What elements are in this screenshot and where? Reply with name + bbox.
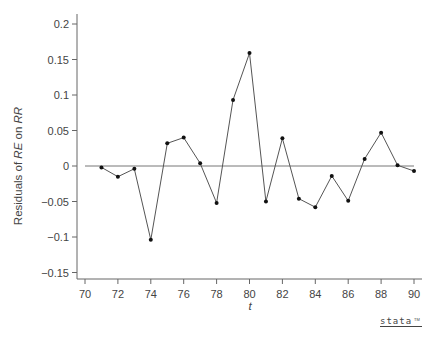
y-axis-title: Residuals of RE on RR [12, 107, 24, 225]
y-tick-label: −0.1 [47, 231, 69, 243]
data-point [379, 131, 383, 135]
data-point [182, 136, 186, 140]
y-tick-label: −0.15 [41, 267, 69, 279]
series-line [102, 53, 415, 240]
x-tick-label: 82 [276, 288, 288, 300]
data-point [231, 98, 235, 102]
x-tick-label: 84 [309, 288, 321, 300]
data-point [363, 157, 367, 161]
x-axis-title: t [248, 300, 252, 312]
stata-logo: stata TM [380, 316, 424, 328]
x-tick-label: 76 [178, 288, 190, 300]
stata-trademark: TM [414, 317, 420, 322]
x-tick-label: 74 [145, 288, 157, 300]
data-point [346, 199, 350, 203]
data-point [297, 197, 301, 201]
data-point [412, 169, 416, 173]
y-tick-label: 0 [63, 160, 69, 172]
x-tick-label: 90 [408, 288, 420, 300]
residuals-line-chart: 0.20.150.10.050−0.05−0.1−0.15 7072747678… [0, 0, 436, 339]
y-tick-label: −0.05 [41, 196, 69, 208]
data-point [198, 161, 202, 165]
y-tick-label: 0.2 [54, 18, 69, 30]
x-axis: 7072747678808284868890 [77, 279, 422, 300]
x-tick-label: 80 [243, 288, 255, 300]
data-point [165, 141, 169, 145]
y-tick-label: 0.05 [48, 125, 69, 137]
x-tick-label: 78 [210, 288, 222, 300]
x-tick-label: 70 [79, 288, 91, 300]
x-tick-label: 86 [342, 288, 354, 300]
data-point [313, 205, 317, 209]
y-tick-label: 0.15 [48, 54, 69, 66]
y-axis: 0.20.150.10.050−0.05−0.1−0.15 [41, 14, 77, 279]
data-point [99, 165, 103, 169]
data-point [280, 136, 284, 140]
data-point [264, 200, 268, 204]
data-point [132, 167, 136, 171]
x-tick-label: 72 [112, 288, 124, 300]
data-point [330, 174, 334, 178]
y-tick-label: 0.1 [54, 89, 69, 101]
data-point [248, 51, 252, 55]
data-point [116, 175, 120, 179]
residual-series [99, 51, 416, 242]
data-point [215, 201, 219, 205]
x-tick-label: 88 [375, 288, 387, 300]
data-point [149, 238, 153, 242]
stata-logo-text: stata [380, 316, 412, 326]
data-point [396, 163, 400, 167]
